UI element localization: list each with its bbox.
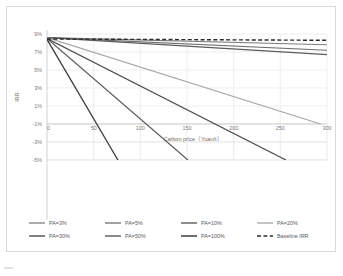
chart-frame: 9%7%5%3%1%-1%-3%-5%050100150200250300Car… xyxy=(6,6,336,252)
legend-item[interactable]: PA=20% xyxy=(257,220,298,226)
legend-label: PA=3% xyxy=(49,220,67,226)
svg-text:150: 150 xyxy=(183,125,192,131)
legend-label: PA=50% xyxy=(125,233,146,239)
legend-item[interactable]: PA=30% xyxy=(29,233,70,239)
y-tick-labels: 9%7%5%3%1%-1%-3%-5% xyxy=(32,31,42,163)
svg-text:300: 300 xyxy=(323,125,332,131)
svg-text:250: 250 xyxy=(276,125,285,131)
legend-item[interactable]: PA=10% xyxy=(181,220,222,226)
x-tick-labels: 050100150200250300 xyxy=(47,125,332,131)
legend-item[interactable]: PA=50% xyxy=(105,233,146,239)
legend-label: PA=5% xyxy=(125,220,143,226)
svg-text:5%: 5% xyxy=(34,67,42,73)
legend-item[interactable]: PA=5% xyxy=(105,220,143,226)
svg-text:0: 0 xyxy=(47,125,50,131)
svg-text:7%: 7% xyxy=(34,49,42,55)
svg-text:9%: 9% xyxy=(34,31,42,37)
line-chart: 9%7%5%3%1%-1%-3%-5%050100150200250300Car… xyxy=(7,7,335,251)
legend-item[interactable]: PA=3% xyxy=(29,220,67,226)
legend-label: PA=30% xyxy=(49,233,70,239)
y-axis-title: IRR xyxy=(14,92,20,102)
svg-text:-3%: -3% xyxy=(32,139,42,145)
svg-text:-1%: -1% xyxy=(32,121,42,127)
figure-container: 9%7%5%3%1%-1%-3%-5%050100150200250300Car… xyxy=(0,0,343,276)
legend-item[interactable]: Baseline IRR xyxy=(257,233,309,239)
legend: PA=3%PA=5%PA=10%PA=20%PA=30%PA=50%PA=100… xyxy=(29,220,309,239)
legend-label: PA=20% xyxy=(277,220,298,226)
legend-label: PA=10% xyxy=(201,220,222,226)
legend-item[interactable]: PA=100% xyxy=(181,233,225,239)
x-axis-title: Carbon price（Yuan/t） xyxy=(163,136,222,142)
svg-text:200: 200 xyxy=(229,125,238,131)
svg-text:-5%: -5% xyxy=(32,157,42,163)
caption-marker xyxy=(4,267,13,269)
legend-label: Baseline IRR xyxy=(277,233,309,239)
legend-label: PA=100% xyxy=(201,233,225,239)
svg-text:3%: 3% xyxy=(34,85,42,91)
svg-text:100: 100 xyxy=(136,125,145,131)
svg-text:50: 50 xyxy=(91,125,97,131)
series-line-pa-20 xyxy=(47,38,320,124)
svg-text:1%: 1% xyxy=(34,103,42,109)
